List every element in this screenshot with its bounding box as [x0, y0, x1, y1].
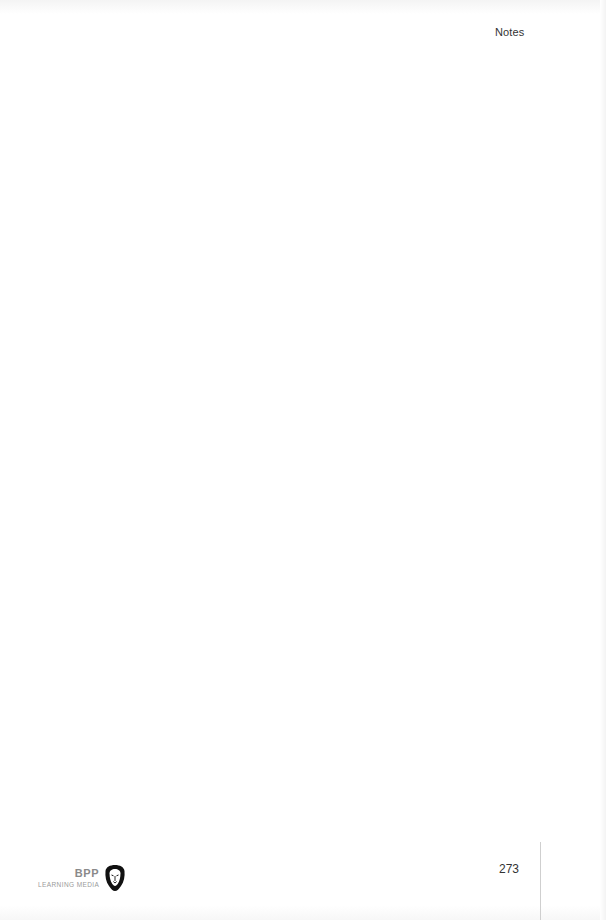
lion-shield-icon — [104, 864, 126, 892]
logo-brand: BPP — [75, 868, 99, 879]
page-number: 273 — [499, 862, 519, 876]
publisher-logo: BPP LEARNING MEDIA — [38, 864, 126, 892]
margin-rule — [540, 842, 541, 920]
logo-subtitle: LEARNING MEDIA — [38, 881, 99, 889]
logo-text: BPP LEARNING MEDIA — [38, 868, 99, 889]
section-label: Notes — [495, 26, 524, 38]
page-edge-shadow — [600, 0, 606, 920]
notes-page: Notes BPP LEARNING MEDIA 273 — [0, 0, 606, 920]
